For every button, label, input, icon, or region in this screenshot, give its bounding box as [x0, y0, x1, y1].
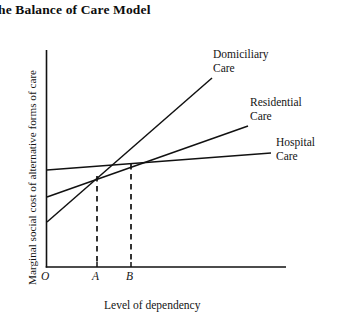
residential-care-line — [47, 126, 248, 197]
plot-area — [0, 0, 337, 330]
origin-tick-label: O — [41, 270, 49, 282]
hospital-care-line — [47, 153, 271, 170]
domiciliary-care-line — [47, 78, 212, 222]
hospital-care-label: Hospital Care — [276, 136, 315, 163]
domiciliary-care-label: Domiciliary Care — [213, 48, 269, 75]
x-axis-label: Level of dependency — [104, 299, 200, 311]
tick-label-b: B — [126, 270, 133, 282]
tick-label-a: A — [92, 270, 99, 282]
y-axis-label: Marginal social cost of alternative form… — [26, 45, 38, 285]
residential-care-label: Residential Care — [250, 96, 302, 123]
balance-of-care-figure: he Balance of Care Model Marginal social… — [0, 0, 337, 330]
